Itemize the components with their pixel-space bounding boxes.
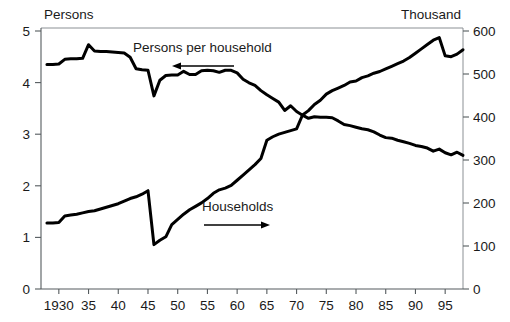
x-tick-label-70: 70: [289, 298, 304, 313]
y2-tick-label-100: 100: [473, 239, 496, 254]
y-tick-label-1: 1: [22, 230, 30, 245]
chart-svg: 5 4 3 2 1 0 Persons 600 500 400 300 200 …: [0, 0, 510, 322]
plot-frame: [41, 28, 463, 289]
y-tick-label-3: 3: [22, 127, 30, 142]
x-tick-label-60: 60: [230, 298, 245, 313]
y-tick-label-0: 0: [22, 282, 30, 297]
y2-tick-label-200: 200: [473, 196, 496, 211]
chart-container: 5 4 3 2 1 0 Persons 600 500 400 300 200 …: [0, 0, 510, 322]
y-axis-left-title: Persons: [44, 7, 94, 22]
x-tick-label-55: 55: [200, 298, 215, 313]
y2-tick-label-300: 300: [473, 153, 496, 168]
x-axis: 193035404550556065707580859095: [41, 289, 463, 313]
x-tick-label-65: 65: [259, 298, 274, 313]
x-tick-label-40: 40: [111, 298, 126, 313]
y-axis-right-title: Thousand: [401, 7, 461, 22]
y2-tick-label-600: 600: [473, 24, 496, 39]
y2-tick-label-400: 400: [473, 110, 496, 125]
x-tick-label-90: 90: [408, 298, 423, 313]
x-tick-label-45: 45: [140, 298, 155, 313]
annotation-persons-per-household: Persons per household: [133, 40, 272, 70]
x-tick-label-80: 80: [348, 298, 363, 313]
y-tick-label-2: 2: [22, 179, 30, 194]
y-axis-left: 5 4 3 2 1 0 Persons: [22, 7, 93, 297]
x-tick-label-1930: 1930: [44, 298, 74, 313]
annotation-arrow-head-left: [172, 62, 181, 69]
y-tick-label-4: 4: [22, 76, 30, 91]
y2-tick-label-0: 0: [473, 282, 481, 297]
x-tick-group: 193035404550556065707580859095: [44, 289, 453, 313]
y-axis-right: 600 500 400 300 200 100 0 Thousand: [401, 7, 496, 297]
x-tick-label-75: 75: [319, 298, 334, 313]
annotation-households: Households: [202, 199, 274, 229]
y-tick-label-5: 5: [22, 24, 30, 39]
y2-tick-label-500: 500: [473, 67, 496, 82]
annotation-arrow-head-right: [261, 221, 270, 228]
x-tick-label-50: 50: [170, 298, 185, 313]
x-tick-label-35: 35: [81, 298, 96, 313]
x-tick-label-95: 95: [438, 298, 453, 313]
annotation-label-persons-per-household: Persons per household: [133, 40, 272, 55]
annotation-label-households: Households: [202, 199, 274, 214]
x-tick-label-85: 85: [378, 298, 393, 313]
